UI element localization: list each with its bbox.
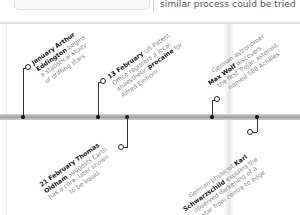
event-stem (98, 82, 99, 117)
event-marker-dot-icon (21, 115, 25, 119)
section-divider (0, 22, 300, 24)
event-label-oldham: 21 February Thomas Oldham suggests Earth… (38, 139, 117, 207)
snippet-text: similar process could be tried (160, 0, 296, 9)
event-marker-ring-icon[interactable] (25, 64, 31, 70)
event-marker-ring-icon[interactable] (100, 78, 106, 84)
top-section: similar process could be tried (0, 0, 300, 22)
event-marker-dot-icon (96, 115, 100, 119)
event-label-procaine: 13 February US Patent Office registers a… (106, 29, 188, 99)
event-stem (257, 117, 258, 132)
event-label-schwarzschild: German physicist Karl Schwarzschild expl… (177, 149, 268, 215)
event-marker-dot-icon (210, 115, 214, 119)
event-label-max-wolf: German astronomer Max Wolf discovers the… (202, 28, 285, 99)
left-margin-rule (6, 0, 7, 215)
event-hook (253, 132, 257, 133)
top-card-box (14, 0, 150, 10)
top-divider (153, 0, 154, 12)
event-marker-ring-icon[interactable] (247, 129, 253, 135)
event-stem (127, 117, 128, 147)
event-marker-ring-icon[interactable] (118, 144, 124, 150)
event-stem (23, 68, 24, 117)
event-label-eddington: January Arthur Eddington begins a statis… (30, 27, 95, 85)
event-hook (124, 147, 128, 148)
